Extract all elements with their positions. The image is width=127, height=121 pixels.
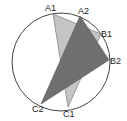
label-a1: A1 xyxy=(45,3,56,13)
diagram-svg: A1 A2 B1 B2 C1 C2 xyxy=(0,0,127,121)
label-c1: C1 xyxy=(63,109,75,119)
inscribed-triangles-diagram: A1 A2 B1 B2 C1 C2 xyxy=(0,0,127,121)
label-b1: B1 xyxy=(101,29,112,39)
label-c2: C2 xyxy=(32,104,44,114)
label-a2: A2 xyxy=(78,6,89,16)
label-b2: B2 xyxy=(110,56,121,66)
